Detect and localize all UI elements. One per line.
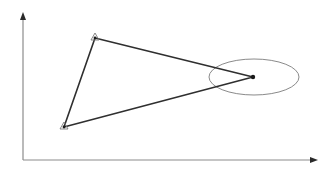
vertex-point	[94, 37, 97, 40]
vertex-dot-marker	[251, 75, 255, 79]
background	[0, 0, 335, 178]
diagram-canvas	[0, 0, 335, 178]
vertex-point	[63, 126, 66, 129]
